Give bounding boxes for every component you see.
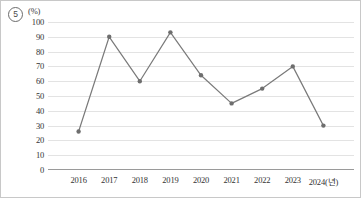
series-line — [79, 32, 324, 131]
x-axis-tick-label: 2016 — [70, 175, 86, 185]
item-number-badge: 5 — [8, 7, 23, 22]
data-point-marker: 2021: 45 — [229, 101, 233, 105]
data-point-marker: 2022: 55 — [260, 86, 264, 90]
data-point-marker: 2024: 30 — [321, 123, 325, 127]
y-axis-tick-label: 20 — [36, 135, 44, 145]
data-point-marker: 2020: 64 — [199, 73, 203, 77]
data-point-marker: 2023: 70 — [291, 64, 295, 68]
data-point-marker: 2019: 93 — [168, 30, 172, 34]
x-axis-tick-label: 2017 — [101, 175, 117, 185]
line-series: 2016: 262017: 902018: 602019: 932020: 64… — [48, 22, 354, 170]
x-axis-tick-label: 2020 — [193, 175, 209, 185]
y-axis-tick-label: 50 — [36, 91, 44, 101]
y-axis-tick-label: 40 — [36, 106, 44, 116]
x-axis-tick-label: 2021 — [223, 175, 239, 185]
x-axis-tick-label: 2018 — [132, 175, 148, 185]
x-axis-tick-label: 2022 — [254, 175, 270, 185]
data-point-marker: 2016: 26 — [76, 129, 80, 133]
y-axis-tick-label: 30 — [36, 121, 44, 131]
y-axis-tick-label: 80 — [36, 47, 44, 57]
y-axis-tick-label: 90 — [36, 32, 44, 42]
y-axis-unit-label: (%) — [28, 6, 40, 16]
y-axis-tick-label: 0 — [40, 165, 44, 175]
data-point-marker: 2018: 60 — [138, 79, 142, 83]
plot-area: 1009080706050403020100 20162017201820192… — [48, 22, 354, 170]
x-axis-tick-label: 2023 — [285, 175, 301, 185]
x-axis-tick-label: 2024(년) — [309, 175, 338, 187]
y-axis-tick-label: 60 — [36, 76, 44, 86]
y-axis-tick-label: 10 — [36, 150, 44, 160]
y-axis-tick-label: 100 — [32, 17, 44, 27]
chart-screenshot: 5 (%) 1009080706050403020100 20162017201… — [0, 0, 361, 198]
x-axis-tick-label: 2019 — [162, 175, 178, 185]
y-axis-tick-label: 70 — [36, 61, 44, 71]
data-point-marker: 2017: 90 — [107, 35, 111, 39]
